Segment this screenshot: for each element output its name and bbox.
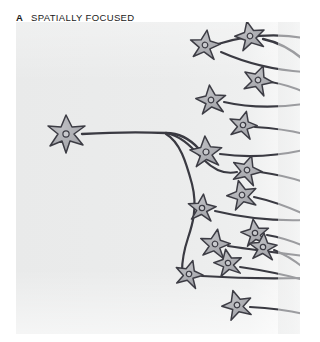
diagram-canvas	[16, 22, 306, 334]
neural-connectivity-diagram	[16, 22, 306, 334]
page-title: SPATIALLY FOCUSED	[31, 12, 134, 23]
right-edge-fade	[278, 22, 306, 334]
figure-panel: A SPATIALLY FOCUSED	[0, 0, 320, 342]
panel-letter: A	[16, 12, 23, 23]
